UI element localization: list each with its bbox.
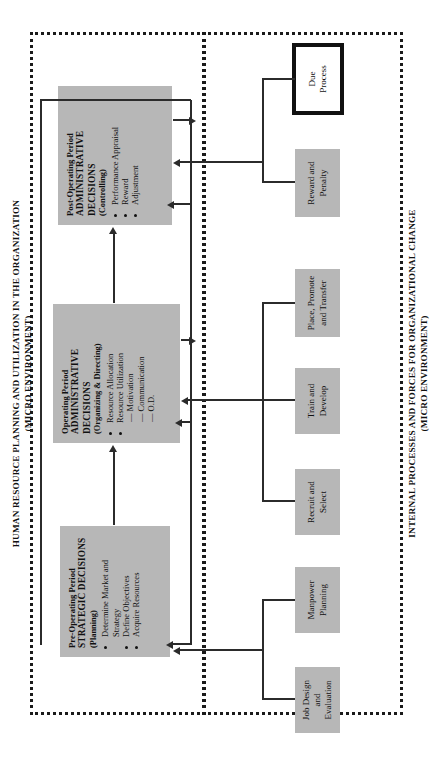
feedback-arrow-into-post [167,201,174,209]
list-item: O.D. [146,313,156,422]
band-divider [203,32,206,715]
bracket-a-arrow [173,647,180,655]
main-box-operating[interactable]: Operating Period ADMINISTRATIVE DECISION… [53,304,180,443]
process-box-manpower-planning[interactable]: Manpower Planning [295,567,340,633]
bracket-b-stem [188,399,263,401]
operating-line1: Operating Period [60,313,70,434]
list-item: Resource Utilization [115,313,125,423]
process-box-reward-penalty[interactable]: Reward and Penalty [295,149,340,217]
process-box-recruit-select[interactable]: Recruit and Select [295,469,340,535]
operating-dashes: Motivation Communication O.D. [125,313,156,434]
flow-arrow-op-to-post [109,227,117,234]
list-item: Reward [120,95,130,205]
bracket-b-leg-mid [262,399,295,401]
operating-line3: (Organizing & Directing) [93,313,103,434]
operating-line2: ADMINISTRATIVE DECISIONS [70,313,93,434]
feedback-arrow-into-pre [166,641,173,649]
bottom-band-title: INTERNAL PROCESSES AND FORCES FOR ORGANI… [406,32,431,715]
feedback-rail-top [40,100,42,645]
bracket-c-leg-right [262,78,295,80]
feedback-rail-end [40,99,191,101]
bracket-a-stem [180,649,263,651]
main-box-pre-operating[interactable]: Pre-Operating Period STRATEGIC DECISIONS… [60,526,170,657]
flow-pre-to-op [113,451,115,525]
flow-op-to-post [113,233,115,303]
feedback-riser-op [181,421,191,423]
bracket-c-stem [180,161,263,163]
bracket-a-leg-left [262,698,295,700]
process-box-due-process[interactable]: Due Process [292,43,344,115]
feedback-rail [190,100,192,645]
bracket-c-leg-left [262,181,295,183]
main-box-post-operating[interactable]: Post-Operating Period ADMINISTRATIVE DEC… [58,86,172,225]
list-item: Motivation [125,313,135,422]
bracket-b-leg-right [262,302,295,304]
bracket-a-leg-right [262,599,295,601]
list-item: Adjustment [130,95,140,205]
process-box-job-design[interactable]: Job Design and Evaluation [295,667,340,733]
process-box-place-promote[interactable]: Place, Promote and Transfer [295,269,340,337]
list-item: Communication [136,313,146,422]
pre-operating-line1: Pre-Operating Period [67,535,77,648]
operating-bullets: Resource Allocation Resource Utilization [105,313,126,434]
process-box-train-develop[interactable]: Train and Develop [295,368,340,434]
pre-operating-bullets: Determine Market and Strategy Define Obj… [100,535,141,648]
feedback-arrow-from-op [189,337,196,345]
pre-operating-line2: STRATEGIC DECISIONS [77,535,88,648]
list-item: Determine Market and Strategy [100,535,121,637]
post-operating-bullets: Performance Appraisal Reward Adjustment [110,95,141,216]
bracket-c-base [262,79,264,183]
feedback-arrow-into-op [175,419,182,427]
pre-operating-line3: (Planning) [89,535,99,648]
diagram-canvas: HUMAN RESOURCE PLANNING AND UTILIZATION … [0,0,442,761]
post-operating-line3: (Controlling) [98,95,108,216]
list-item: Acquire Resources [131,535,141,637]
feedback-riser-pre [172,643,191,645]
post-operating-line1: Post-Operating Period [65,95,75,216]
list-item: Performance Appraisal [110,95,120,205]
bracket-c-arrow [173,159,180,167]
post-operating-line2: ADMINISTRATIVE DECISIONS [75,95,98,216]
flow-arrow-pre-to-op [109,445,117,452]
list-item: Define Objectives [121,535,131,637]
bracket-b-arrow [181,397,188,405]
list-item: Resource Allocation [105,313,115,423]
bracket-b-base [262,302,264,502]
feedback-riser-post [173,203,191,205]
feedback-arrow-from-post [189,117,196,125]
bracket-b-leg-left [262,500,295,502]
